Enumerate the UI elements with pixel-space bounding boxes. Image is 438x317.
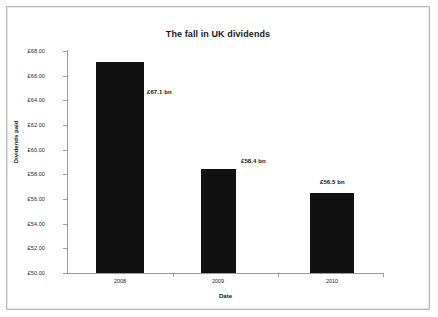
y-axis-tick-label: £64.00	[28, 97, 45, 103]
y-axis-tick-label: £52.00	[28, 245, 45, 251]
x-axis-tick	[173, 273, 174, 277]
x-axis-line	[67, 273, 384, 274]
y-axis-tick-label: £56.00	[28, 196, 45, 202]
y-axis-tick-label: £54.00	[28, 221, 45, 227]
x-axis-category-2009: 2009	[198, 278, 238, 284]
y-axis-tick	[63, 76, 68, 77]
y-axis-tick-label: £50.00	[28, 270, 45, 276]
bar-2008[interactable]	[96, 62, 144, 273]
y-axis-tick	[63, 100, 68, 101]
y-axis-tick	[63, 199, 68, 200]
bar-label-2009: £58.4 bn	[241, 158, 266, 164]
y-axis-tick	[63, 51, 68, 52]
y-axis-tick-label: £58.00	[28, 171, 45, 177]
x-axis-category-2010: 2010	[312, 278, 352, 284]
x-axis-title: Date	[67, 293, 384, 299]
y-axis-tick-label: £66.00	[28, 73, 45, 79]
y-axis-tick-label: £62.00	[28, 122, 45, 128]
y-axis-tick	[63, 224, 68, 225]
bar-2009[interactable]	[201, 169, 236, 273]
bar-label-2008: £67.1 bn	[147, 89, 172, 95]
y-axis-line	[67, 50, 68, 274]
bar-2010[interactable]	[310, 193, 354, 273]
y-axis-tick	[63, 174, 68, 175]
x-axis-tick	[278, 273, 279, 277]
chart-title: The fall in UK dividends	[7, 29, 429, 39]
x-axis-tick	[383, 273, 384, 277]
y-axis-tick	[63, 248, 68, 249]
x-axis-category-2008: 2008	[100, 278, 140, 284]
y-axis-tick-label: £68.00	[28, 48, 45, 54]
chart-frame: The fall in UK dividends £68.00 £66.00 £…	[6, 6, 430, 310]
y-axis-tick	[63, 273, 68, 274]
y-axis-tick-label: £60.00	[28, 147, 45, 153]
y-axis-tick	[63, 150, 68, 151]
y-axis-tick	[63, 125, 68, 126]
bar-label-2010: £56.5 bn	[320, 179, 345, 185]
y-axis-title: Dividends paid	[13, 97, 19, 187]
